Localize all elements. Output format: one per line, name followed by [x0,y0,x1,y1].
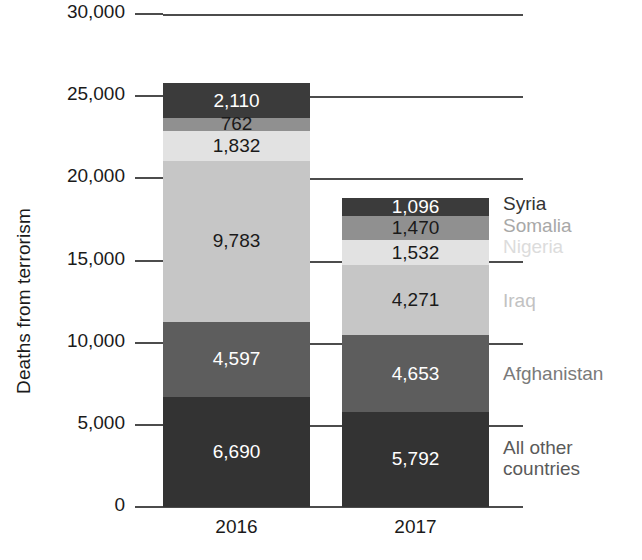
bar-segment[interactable]: 4,597 [163,322,310,398]
legend-item-somalia[interactable]: Somalia [503,215,572,236]
legend-item-syria[interactable]: Syria [503,193,546,214]
gridline [489,343,523,345]
y-axis-tick-mark [135,95,163,97]
y-axis-tick-label: 15,000 [67,248,125,270]
bar-2016[interactable]: 2,1107621,8329,7834,5976,690 [163,0,310,560]
gridline [310,261,342,263]
y-axis-tick-label: 5,000 [77,412,125,434]
bar-segment[interactable]: 4,271 [342,265,489,335]
y-axis-tick-mark [135,177,163,179]
bar-segment-value-label: 1,832 [213,136,261,155]
y-axis-title: Deaths from terrorism [13,91,35,511]
y-axis-tick-mark [135,260,163,262]
bar-segment-value-label: 4,597 [213,349,261,368]
bar-segment-value-label: 1,470 [392,218,440,237]
bar-segment[interactable]: 5,792 [342,412,489,507]
bar-segment[interactable]: 762 [163,118,310,131]
legend-item-afghanistan[interactable]: Afghanistan [503,363,603,384]
x-axis-label-2016: 2016 [163,516,310,538]
bar-segment[interactable]: 1,832 [163,131,310,161]
gridline [489,261,523,263]
y-axis-tick-mark [135,342,163,344]
bar-segment-value-label: 4,653 [392,364,440,383]
y-axis-tick-mark [135,424,163,426]
bar-segment-value-label: 4,271 [392,290,440,309]
y-axis-tick-label: 10,000 [67,330,125,352]
y-axis-tick-label: 25,000 [67,83,125,105]
legend-item-all-other-countries[interactable]: All other countries [503,437,580,479]
stacked-bar-chart: Deaths from terrorism 05,00010,00015,000… [0,0,642,560]
y-axis-tick-mark [135,13,163,15]
y-axis-tick-label: 30,000 [67,1,125,23]
bar-segment[interactable]: 4,653 [342,335,489,411]
legend-item-nigeria[interactable]: Nigeria [503,236,563,257]
bar-segment-value-label: 5,792 [392,449,440,468]
bar-segment-value-label: 9,783 [213,231,261,250]
gridline [310,343,342,345]
gridline [489,425,523,427]
bar-segment[interactable]: 1,096 [342,198,489,216]
y-axis-tick-label: 0 [114,494,125,516]
bar-segment-value-label: 1,532 [392,243,440,262]
bar-segment[interactable]: 9,783 [163,161,310,322]
bar-segment[interactable]: 6,690 [163,397,310,507]
y-axis-tick-label: 20,000 [67,165,125,187]
gridline [310,425,342,427]
x-axis-label-2017: 2017 [342,516,489,538]
bar-segment-value-label: 6,690 [213,442,261,461]
bar-2017[interactable]: 1,0961,4701,5324,2714,6535,792 [342,0,489,560]
bar-segment-value-label: 1,096 [392,197,440,216]
legend-item-iraq[interactable]: Iraq [503,290,536,311]
bar-segment-value-label: 2,110 [213,91,259,110]
bar-segment[interactable]: 1,532 [342,240,489,265]
bar-segment[interactable]: 1,470 [342,216,489,240]
